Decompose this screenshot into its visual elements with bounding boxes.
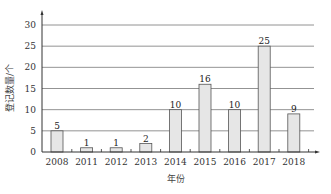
y-tick-label: 25: [25, 41, 37, 51]
y-tick-label: 10: [25, 105, 37, 115]
x-tick-label: 2008: [46, 157, 69, 167]
y-tick-label: 30: [25, 20, 37, 30]
x-tick-label: 2015: [194, 157, 217, 167]
y-tick-label: 15: [25, 84, 37, 94]
bar-value-label: 25: [258, 36, 270, 46]
bar-2017: [258, 46, 270, 152]
x-tick-label: 2013: [134, 157, 157, 167]
bars: 5112101610259: [51, 36, 300, 152]
y-tick-label: 5: [30, 126, 36, 136]
bar-2011: [81, 148, 93, 152]
x-tick-label: 2012: [105, 157, 128, 167]
x-tick-label: 2011: [75, 157, 98, 167]
bar-2014: [169, 110, 181, 152]
bar-2018: [288, 114, 300, 152]
bar-value-label: 1: [113, 138, 119, 148]
x-axis-title: 年份: [167, 173, 185, 184]
bar-value-label: 1: [84, 138, 90, 148]
bar-value-label: 5: [54, 121, 60, 131]
bar-value-label: 2: [143, 134, 149, 144]
y-tick-label: 0: [30, 147, 36, 157]
bar-2013: [140, 144, 152, 152]
x-tick-label: 2014: [164, 157, 187, 167]
bar-2008: [51, 131, 63, 152]
x-tick-label: 2018: [282, 157, 305, 167]
x-axis-arrow-icon: [315, 151, 320, 154]
y-axis-title: 登记数量/个: [4, 64, 15, 112]
y-axis-arrow-icon: [41, 10, 44, 15]
y-tick-label: 20: [25, 62, 37, 72]
x-tick-label: 2017: [253, 157, 276, 167]
bar-value-label: 9: [291, 104, 297, 114]
y-axis-ticks: 051015202530: [25, 20, 37, 157]
x-tick-label: 2016: [223, 157, 246, 167]
bar-2015: [199, 84, 211, 152]
bar-value-label: 10: [170, 100, 182, 110]
bar-chart: 051015202530 5112101610259 2008201120122…: [0, 0, 331, 194]
bar-2012: [110, 148, 122, 152]
bar-value-label: 16: [199, 74, 211, 84]
bar-value-label: 10: [229, 100, 241, 110]
bar-2016: [229, 110, 241, 152]
